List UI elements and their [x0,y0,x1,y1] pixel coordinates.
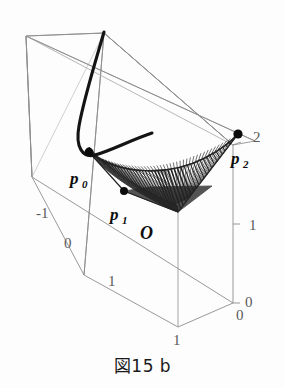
tick-vertical-2: 2 [253,129,261,145]
tick-base-right: 0 [236,307,244,323]
box-bottom-right-edge [178,303,233,327]
ruled-surface [89,134,238,212]
label-origin: O [140,223,153,243]
point-label-p1: p 1 [108,205,128,226]
marker-p1 [120,187,128,195]
marker-p0 [85,148,94,157]
tick-base-front: 1 [173,332,181,348]
box-secondary-diagonal [26,36,233,145]
point-label-p2: p 2 [229,149,249,170]
tick-depth-0: 0 [64,235,72,251]
box-top-face [26,33,255,145]
label-p2-letter: p [229,149,240,168]
box-top-back-edge [26,36,255,141]
label-p0-letter: p [68,169,79,188]
figure-caption: 図15 b [0,352,285,377]
box-interior-guide [26,33,233,177]
box-bottom-front-edge [84,275,178,327]
surface-rulings [89,134,238,212]
label-p2-subscript: 2 [242,158,249,170]
label-p1-subscript: 1 [122,214,128,226]
tick-vertical-1: 1 [249,217,257,233]
box-bottom-back-edge [32,177,233,303]
space-curve [78,32,152,156]
tick-depth-1: 1 [108,273,116,289]
point-label-p0: p 0 [68,169,88,190]
figure-plot: p 0 p 1 p 2 O -1 0 1 2 1 0 0 1 [0,0,285,388]
tick-vertical-0: 0 [245,294,253,310]
label-p0-subscript: 0 [82,178,88,190]
tick-depth-minus1: -1 [36,205,49,221]
label-p1-letter: p [108,205,119,224]
figure-container: p 0 p 1 p 2 O -1 0 1 2 1 0 0 1 図15 b [0,0,285,388]
marker-p2 [233,129,242,138]
